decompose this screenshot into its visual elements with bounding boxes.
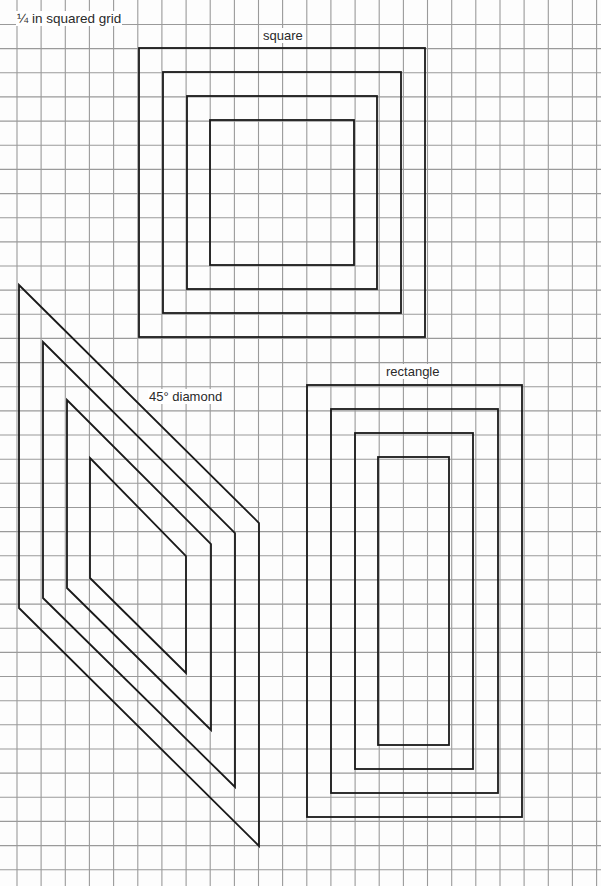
diamond-outline [43,342,235,787]
square-outline [210,120,354,265]
concentric-45-diamonds [19,285,259,846]
square-outline [139,48,425,337]
square-outline [163,72,401,313]
diamond-outline [19,285,259,846]
rectangle-label: rectangle [385,364,440,379]
rectangle-outline [307,385,522,817]
graph-paper-sheet: ¼ in squared grid square rectangle 45° d… [0,0,601,886]
diamond-label: 45° diamond [148,389,223,404]
rectangle-outline [378,457,449,745]
square-outline [187,96,377,289]
drawing-canvas [0,0,601,886]
concentric-squares [139,48,425,337]
square-label: square [262,28,304,43]
grid-lines [0,0,601,886]
concentric-rectangles [307,385,522,817]
page-title: ¼ in squared grid [16,11,122,26]
diamond-outline [67,400,211,730]
